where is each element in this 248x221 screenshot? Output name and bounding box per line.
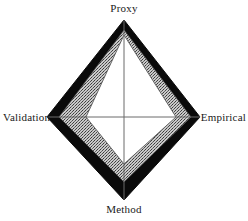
axis-label-proxy: Proxy bbox=[0, 2, 248, 14]
radar-diagram: Proxy Empirical Method Validation bbox=[0, 0, 248, 221]
axis-label-validation: Validation bbox=[3, 111, 50, 123]
axis-label-method: Method bbox=[0, 203, 248, 215]
axis-label-empirical: Empirical bbox=[201, 111, 246, 123]
